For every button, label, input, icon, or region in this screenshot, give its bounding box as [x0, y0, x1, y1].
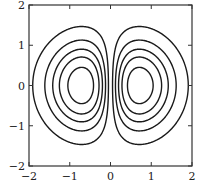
x-tick-label: 0: [107, 170, 114, 183]
x-tick-label: 2: [189, 170, 196, 183]
contour-plot: −2 −1 0 1 2 −2 −1 0 1 2: [0, 0, 198, 183]
x-tick-label: −1: [62, 170, 78, 183]
y-tick-label: 2: [18, 0, 25, 12]
y-tick-label: −2: [9, 160, 25, 173]
contour-line: [45, 40, 176, 131]
y-tick-label: −1: [9, 120, 25, 133]
x-axis-tick-labels: −2 −1 0 1 2: [21, 170, 196, 183]
x-tick-label: 1: [148, 170, 155, 183]
y-axis-tick-labels: −2 −1 0 1 2: [9, 0, 25, 173]
plot-frame: [29, 5, 192, 166]
y-tick-label: 0: [18, 80, 25, 93]
contour-line: [59, 57, 161, 114]
contour-line: [33, 26, 189, 144]
contour-line: [68, 67, 153, 103]
y-tick-label: 1: [18, 39, 25, 52]
contour-line: [53, 49, 169, 122]
contour-lines: [33, 26, 189, 144]
axis-ticks: [29, 5, 192, 166]
